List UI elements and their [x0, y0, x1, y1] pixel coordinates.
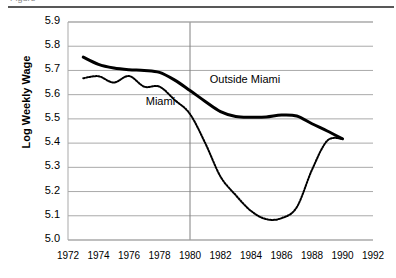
chart-figure: Figure Log Weekly Wage 5.05.15.25.35.45.…	[0, 0, 396, 278]
y-tick-label-5.1: 5.1	[30, 208, 60, 220]
series-annotation-outside-miami: Outside Miami	[210, 73, 280, 85]
y-tick-label-5.3: 5.3	[30, 159, 60, 171]
y-tick-label-5.7: 5.7	[30, 62, 60, 74]
y-tick-label-5.4: 5.4	[30, 135, 60, 147]
y-tick-label-5.8: 5.8	[30, 38, 60, 50]
x-tick-label-1992: 1992	[353, 250, 393, 261]
y-tick-label-5.0: 5.0	[30, 232, 60, 244]
y-tick-label-5.9: 5.9	[30, 14, 60, 26]
series-line-miami	[83, 76, 342, 220]
y-tick-label-5.2: 5.2	[30, 184, 60, 196]
y-tick-label-5.5: 5.5	[30, 111, 60, 123]
series-annotation-miami: Miami	[146, 95, 175, 107]
series-line-outside-miami	[83, 57, 342, 139]
y-tick-label-5.6: 5.6	[30, 87, 60, 99]
